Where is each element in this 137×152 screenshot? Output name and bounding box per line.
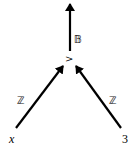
right-edge-type-label: ℤ xyxy=(109,96,117,106)
leaf-constant-3: 3 xyxy=(122,133,128,145)
expression-tree-diagram: 𝔹 > ℤ ℤ x 3 xyxy=(0,0,137,152)
root-operator-node: > xyxy=(65,54,73,64)
leaf-variable-x: x xyxy=(9,133,14,145)
edges-layer xyxy=(0,0,137,152)
left-edge-type-label: ℤ xyxy=(17,96,25,106)
output-type-label: 𝔹 xyxy=(74,35,82,45)
